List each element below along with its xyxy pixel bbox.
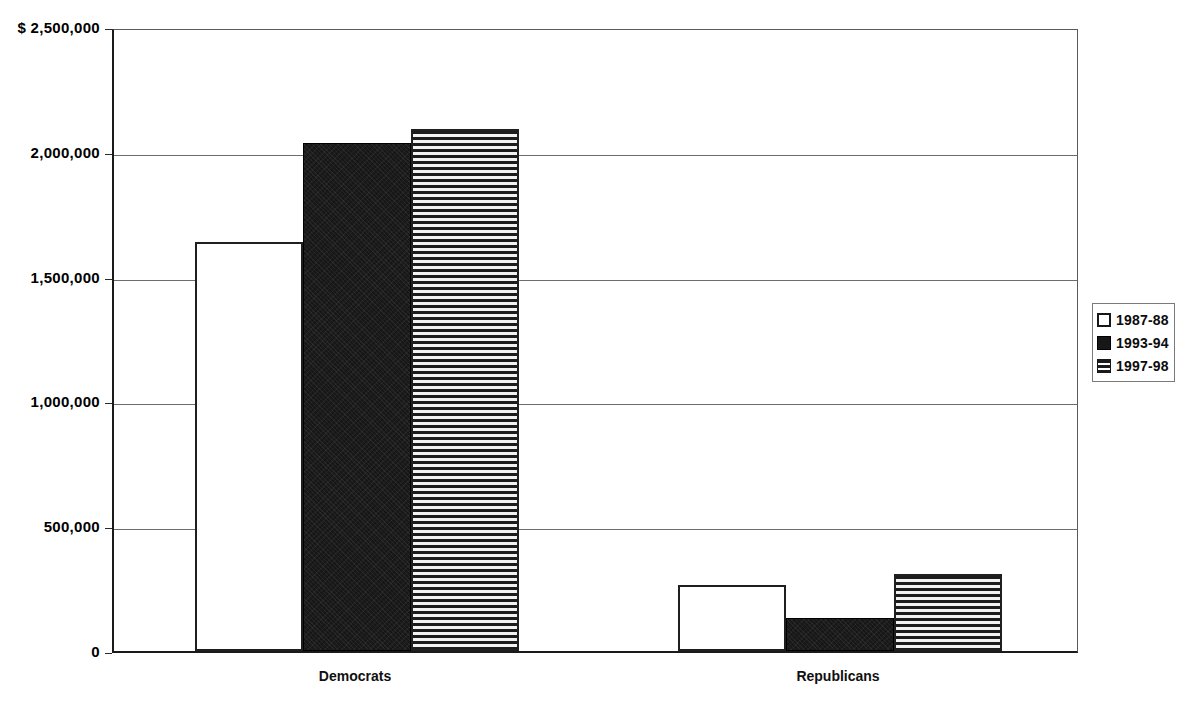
x-axis-label-democrats: Democrats bbox=[319, 668, 391, 684]
y-axis-tick bbox=[105, 653, 112, 654]
y-axis-tick-label: $ 2,500,000 bbox=[17, 19, 100, 36]
bar-democrats-1997-98 bbox=[411, 129, 519, 651]
bar-republicans-1993-94 bbox=[786, 618, 894, 651]
legend-item-1993-94[interactable]: 1993-94 bbox=[1097, 331, 1169, 354]
y-axis-tick bbox=[105, 528, 112, 529]
y-axis-tick-label: 1,500,000 bbox=[31, 269, 100, 286]
bar-republicans-1997-98 bbox=[894, 574, 1002, 651]
legend-item-label: 1987-88 bbox=[1116, 312, 1169, 328]
bar-republicans-1987-88 bbox=[678, 585, 786, 651]
legend-item-1987-88[interactable]: 1987-88 bbox=[1097, 308, 1169, 331]
legend-swatch-icon bbox=[1097, 336, 1111, 350]
gridline bbox=[114, 155, 1077, 156]
legend-item-label: 1993-94 bbox=[1116, 335, 1169, 351]
bar-democrats-1987-88 bbox=[195, 242, 303, 651]
y-axis-tick-label: 1,000,000 bbox=[31, 393, 100, 410]
bar-chart: 0500,0001,000,0001,500,0002,000,000$ 2,5… bbox=[0, 0, 1203, 706]
y-axis-tick bbox=[105, 279, 112, 280]
legend-item-label: 1997-98 bbox=[1116, 358, 1169, 374]
y-axis-tick-label: 2,000,000 bbox=[31, 144, 100, 161]
y-axis-tick-label: 0 bbox=[91, 643, 100, 660]
chart-legend: 1987-881993-941997-98 bbox=[1092, 303, 1175, 382]
y-axis-tick bbox=[105, 29, 112, 30]
plot-area bbox=[112, 29, 1078, 653]
x-axis-label-republicans: Republicans bbox=[796, 668, 879, 684]
y-axis-tick bbox=[105, 403, 112, 404]
legend-item-1997-98[interactable]: 1997-98 bbox=[1097, 354, 1169, 377]
bar-democrats-1993-94 bbox=[303, 143, 411, 651]
legend-swatch-icon bbox=[1097, 313, 1111, 327]
legend-swatch-icon bbox=[1097, 359, 1111, 373]
y-axis-tick-label: 500,000 bbox=[44, 518, 100, 535]
y-axis-tick bbox=[105, 154, 112, 155]
